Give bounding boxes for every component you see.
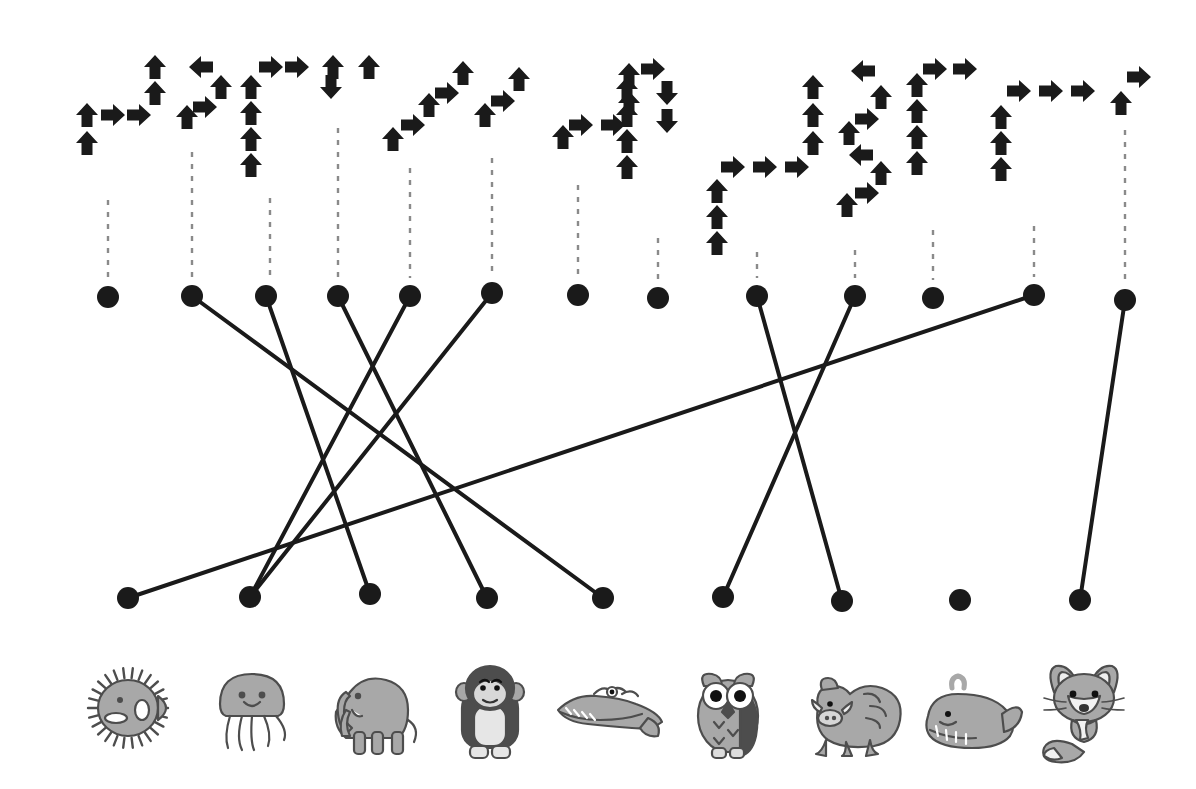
arrow-up-icon (702, 228, 732, 258)
arrow-left-icon (848, 56, 878, 86)
arrow-up-icon (986, 102, 1016, 132)
arrow-up-icon (798, 72, 828, 102)
arrow-up-icon (612, 100, 642, 130)
arrow-up-icon (318, 52, 348, 82)
arrow-up-icon (612, 126, 642, 156)
top-node-11[interactable] (922, 287, 944, 309)
top-node-2[interactable] (181, 285, 203, 307)
bottom-node-8[interactable] (949, 589, 971, 611)
top-node-10[interactable] (844, 285, 866, 307)
animal-fox[interactable] (1024, 648, 1144, 768)
arrow-right-icon (718, 152, 748, 182)
arrow-up-icon (140, 78, 170, 108)
top-node-1[interactable] (97, 286, 119, 308)
bottom-node-7[interactable] (831, 590, 853, 612)
bottom-node-2[interactable] (239, 586, 261, 608)
edge-top12-bottom1[interactable] (128, 295, 1034, 598)
arrow-up-icon (902, 148, 932, 178)
node-edge-layer (128, 293, 1125, 601)
arrow-up-icon (902, 96, 932, 126)
arrow-up-icon (866, 82, 896, 112)
arrow-up-icon (798, 100, 828, 130)
animal-crocodile[interactable] (548, 648, 668, 768)
bottom-node-layer (117, 583, 1091, 612)
arrow-up-icon (140, 52, 170, 82)
top-node-7[interactable] (567, 284, 589, 306)
arrow-right-icon (920, 54, 950, 84)
top-node-5[interactable] (399, 285, 421, 307)
top-node-6[interactable] (481, 282, 503, 304)
animal-gorilla[interactable] (430, 648, 550, 768)
arrow-up-icon (612, 152, 642, 182)
arrow-down-icon (652, 106, 682, 136)
animal-owl[interactable] (668, 648, 788, 768)
edge-top10-bottom6[interactable] (723, 296, 855, 597)
edge-top2-bottom5[interactable] (192, 296, 603, 598)
arrow-right-icon (750, 152, 780, 182)
arrow-right-icon (950, 54, 980, 84)
arrow-up-icon (236, 150, 266, 180)
bottom-node-1[interactable] (117, 587, 139, 609)
arrow-right-icon (566, 110, 596, 140)
arrow-up-icon (1106, 88, 1136, 118)
top-node-13[interactable] (1114, 289, 1136, 311)
top-node-9[interactable] (746, 285, 768, 307)
arrow-up-icon (354, 52, 384, 82)
animal-jellyfish[interactable] (192, 648, 312, 768)
arrow-up-icon (448, 58, 478, 88)
animal-whale[interactable] (906, 648, 1026, 768)
arrow-up-icon (236, 98, 266, 128)
diagram-canvas (0, 0, 1196, 789)
arrow-right-icon (1124, 62, 1154, 92)
arrow-up-icon (236, 124, 266, 154)
animal-elephant[interactable] (310, 648, 430, 768)
top-node-4[interactable] (327, 285, 349, 307)
arrow-up-icon (986, 154, 1016, 184)
arrow-up-icon (986, 128, 1016, 158)
arrow-right-icon (1036, 76, 1066, 106)
arrow-right-icon (1004, 76, 1034, 106)
top-node-layer (97, 282, 1136, 311)
arrow-up-icon (504, 64, 534, 94)
edge-top4-bottom4[interactable] (338, 296, 487, 598)
edge-top13-bottom9[interactable] (1080, 300, 1125, 600)
edge-top6-bottom2[interactable] (250, 293, 492, 597)
arrow-left-icon (186, 52, 216, 82)
arrow-right-icon (1068, 76, 1098, 106)
animal-boar[interactable] (786, 648, 906, 768)
arrow-down-icon (652, 78, 682, 108)
edge-top3-bottom3[interactable] (266, 296, 370, 594)
arrow-up-icon (72, 128, 102, 158)
top-node-12[interactable] (1023, 284, 1045, 306)
bottom-node-6[interactable] (712, 586, 734, 608)
bottom-node-9[interactable] (1069, 589, 1091, 611)
edge-top5-bottom2[interactable] (250, 296, 410, 597)
arrow-up-icon (702, 202, 732, 232)
bottom-node-3[interactable] (359, 583, 381, 605)
top-node-8[interactable] (647, 287, 669, 309)
arrow-up-icon (798, 128, 828, 158)
arrow-up-icon (902, 122, 932, 152)
arrow-right-icon (282, 52, 312, 82)
top-node-3[interactable] (255, 285, 277, 307)
bottom-node-5[interactable] (592, 587, 614, 609)
animal-pufferfish[interactable] (70, 648, 190, 768)
edge-top9-bottom7[interactable] (757, 296, 842, 601)
bottom-node-4[interactable] (476, 587, 498, 609)
